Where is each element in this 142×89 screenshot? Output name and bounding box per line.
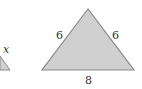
left-triangle-side-label: x bbox=[3, 43, 10, 56]
main-triangle-left-side-label: 6 bbox=[56, 29, 63, 42]
main-triangle-base-label: 8 bbox=[85, 74, 92, 87]
left-triangle-partial bbox=[0, 56, 10, 70]
figure-canvas: x 6 6 8 bbox=[0, 0, 142, 89]
main-triangle-right-side-label: 6 bbox=[112, 29, 119, 42]
